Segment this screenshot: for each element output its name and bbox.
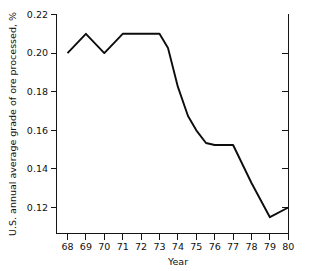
y-tick-label-1: 0.20 [27,47,48,58]
y-tick-label-3: 0.16 [27,125,48,136]
x-tick-label-7: 75 [190,241,202,252]
y-tick-label-2: 0.18 [27,86,48,97]
x-tick-label-11: 79 [264,241,276,252]
x-tick-label-8: 76 [209,241,221,252]
x-tick-label-12: 80 [282,241,294,252]
x-tick-label-10: 78 [245,241,257,252]
x-tick-label-1: 69 [80,241,92,252]
y-tick-label-0: 0.22 [27,9,48,20]
x-tick-label-9: 77 [227,241,239,252]
x-tick-label-6: 74 [172,241,184,252]
x-tick-label-4: 72 [135,241,147,252]
line-chart: 0.22 0.20 0.18 0.16 0.14 0.12 68 69 70 7… [0,0,313,271]
x-tick-label-0: 68 [61,241,73,252]
x-tick-label-3: 71 [117,241,129,252]
x-tick-label-2: 70 [98,241,110,252]
chart-figure: 0.22 0.20 0.18 0.16 0.14 0.12 68 69 70 7… [0,0,313,271]
y-tick-label-5: 0.12 [27,202,48,213]
y-axis-title: U.S. annual average grade of ore process… [7,12,18,236]
x-tick-label-5: 73 [153,241,165,252]
x-axis-title: Year [167,256,188,267]
y-tick-label-4: 0.14 [27,163,48,174]
